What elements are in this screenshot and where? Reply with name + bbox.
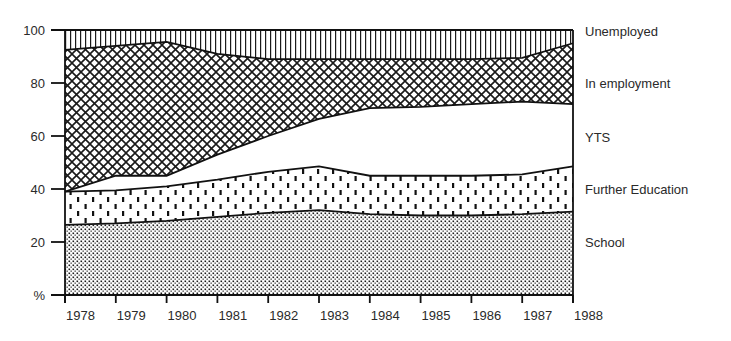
x-tick-label: 1978 [66, 308, 95, 323]
y-tick-label: 40 [31, 182, 45, 197]
x-tick-label: 1987 [523, 308, 552, 323]
x-tick-label: 1988 [574, 308, 603, 323]
legend-label-further-education: Further Education [585, 182, 688, 197]
y-tick-label: 60 [31, 129, 45, 144]
plot-areas [65, 30, 573, 295]
x-tick-label: 1980 [168, 308, 197, 323]
legend-label-yts: YTS [585, 130, 611, 145]
stacked-area-chart: %204060801001978197919801981198219831984… [0, 0, 731, 341]
legend: UnemployedIn employmentYTSFurther Educat… [585, 24, 688, 250]
x-tick-label: 1981 [218, 308, 247, 323]
x-tick-label: 1982 [269, 308, 298, 323]
y-tick-label: 20 [31, 235, 45, 250]
y-tick-label: % [33, 288, 45, 303]
x-tick-label: 1985 [422, 308, 451, 323]
legend-label-in-employment: In employment [585, 76, 671, 91]
x-tick-label: 1984 [371, 308, 400, 323]
x-tick-label: 1986 [472, 308, 501, 323]
legend-label-unemployed: Unemployed [585, 24, 658, 39]
y-tick-label: 80 [31, 76, 45, 91]
legend-label-school: School [585, 235, 625, 250]
x-tick-label: 1983 [320, 308, 349, 323]
y-tick-label: 100 [23, 23, 45, 38]
x-tick-label: 1979 [117, 308, 146, 323]
